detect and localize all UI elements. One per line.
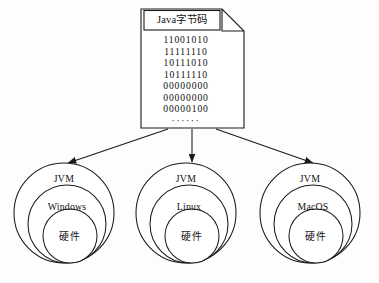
code-line-3: 10111010 — [149, 58, 223, 68]
document-title-label: Java字节码 — [144, 15, 220, 26]
hardware-label-macos: 硬件 — [286, 232, 346, 242]
code-line-6: 00000000 — [149, 93, 223, 103]
hardware-label-windows: 硬件 — [40, 232, 100, 242]
os-label-macos: MacOS — [273, 202, 353, 212]
distribution-arrows — [68, 129, 313, 163]
hardware-label-linux: 硬件 — [162, 232, 222, 242]
code-line-7: 00000100 — [149, 104, 223, 114]
code-line-2: 11111110 — [149, 47, 223, 57]
jvm-label-macos: JVM — [280, 174, 340, 184]
os-label-linux: Linux — [149, 202, 229, 212]
arrow-to-windows — [68, 129, 168, 163]
arrow-to-macos — [216, 129, 313, 163]
diagram-canvas: Java字节码 11001010 11111110 10111010 10111… — [0, 0, 379, 283]
code-line-5: 00000000 — [149, 81, 223, 91]
code-ellipsis: ······ — [149, 116, 223, 126]
jvm-label-windows: JVM — [34, 174, 94, 184]
os-label-windows: Windows — [27, 202, 107, 212]
code-line-4: 10111110 — [149, 70, 223, 80]
code-line-1: 11001010 — [149, 35, 223, 45]
jvm-label-linux: JVM — [156, 174, 216, 184]
